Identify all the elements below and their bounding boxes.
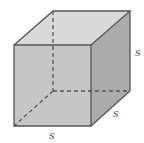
cube-diagram: s s s [0, 0, 144, 143]
width-label: s [49, 129, 55, 142]
depth-label: s [113, 107, 119, 120]
height-label: s [135, 46, 141, 59]
cube-front-face [14, 45, 91, 126]
